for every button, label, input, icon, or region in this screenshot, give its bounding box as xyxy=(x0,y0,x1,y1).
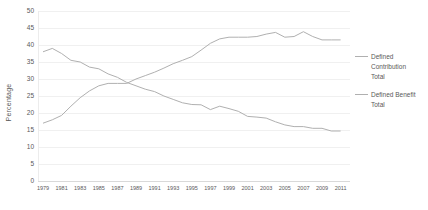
legend-item: Defined Contribution Total xyxy=(355,52,421,81)
series-line xyxy=(43,32,341,124)
legend-line-icon xyxy=(355,56,368,57)
legend-label: Defined Contribution Total xyxy=(371,52,421,81)
legend: Defined Contribution TotalDefined Benefi… xyxy=(355,52,421,119)
series-line xyxy=(43,48,341,131)
legend-line-icon xyxy=(355,94,368,95)
legend-item: Defined Benefit Total xyxy=(355,90,421,110)
line-chart: Percentage 05101520253035404550 19791981… xyxy=(0,0,428,210)
legend-label: Defined Benefit Total xyxy=(371,90,421,110)
